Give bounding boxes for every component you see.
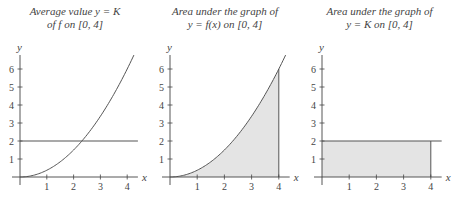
- y-tick-label: 2: [9, 136, 14, 147]
- x-tick-label: 2: [222, 181, 227, 192]
- x-tick-label: 4: [125, 181, 130, 192]
- shaded-area: [170, 69, 279, 177]
- x-axis-label: x: [293, 171, 299, 183]
- panel-average-value: Average value y = K of f on [0, 4] 12341…: [0, 0, 155, 202]
- x-tick-label: 4: [276, 181, 281, 192]
- x-tick-label: 3: [98, 181, 103, 192]
- chart-average-value: 1234123456xy: [0, 0, 155, 202]
- y-tick-label: 5: [159, 82, 164, 93]
- y-tick-label: 3: [159, 118, 164, 129]
- chart-area-under-f: 1234123456xy: [150, 0, 305, 202]
- y-axis-label: y: [166, 41, 172, 53]
- y-tick-label: 2: [311, 136, 316, 147]
- y-tick-label: 5: [311, 82, 316, 93]
- y-tick-label: 4: [159, 100, 164, 111]
- y-tick-label: 5: [9, 82, 14, 93]
- y-tick-label: 4: [311, 100, 316, 111]
- chart-area-under-k: 1234123456xy: [302, 0, 462, 202]
- panel-area-under-k: Area under the graph of y = K on [0, 4] …: [302, 0, 462, 202]
- x-axis-label: x: [445, 171, 451, 183]
- x-tick-label: 3: [249, 181, 254, 192]
- panel-area-under-f: Area under the graph of y = f(x) on [0, …: [150, 0, 305, 202]
- y-tick-label: 1: [311, 154, 316, 165]
- curve-f: [20, 55, 134, 177]
- y-axis-label: y: [16, 41, 22, 53]
- y-tick-label: 3: [9, 118, 14, 129]
- y-tick-label: 6: [159, 64, 164, 75]
- y-tick-label: 3: [311, 118, 316, 129]
- x-tick-label: 3: [401, 181, 406, 192]
- y-tick-label: 4: [9, 100, 14, 111]
- shaded-area: [322, 141, 431, 177]
- y-tick-label: 1: [159, 154, 164, 165]
- y-axis-label: y: [318, 41, 324, 53]
- x-tick-label: 2: [374, 181, 379, 192]
- x-tick-label: 1: [347, 181, 352, 192]
- y-tick-label: 2: [159, 136, 164, 147]
- x-tick-label: 4: [428, 181, 433, 192]
- y-tick-label: 6: [311, 64, 316, 75]
- x-tick-label: 1: [195, 181, 200, 192]
- y-tick-label: 6: [9, 64, 14, 75]
- x-tick-label: 1: [44, 181, 49, 192]
- x-axis-label: x: [141, 171, 147, 183]
- x-tick-label: 2: [71, 181, 76, 192]
- y-tick-label: 1: [9, 154, 14, 165]
